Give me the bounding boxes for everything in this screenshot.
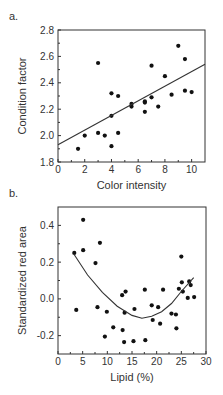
y-tick-label: -0.2: [37, 330, 55, 341]
x-tick-label: 20: [151, 356, 163, 367]
data-point: [103, 334, 107, 338]
data-point: [111, 325, 115, 329]
data-point: [169, 311, 173, 315]
data-point: [93, 261, 97, 265]
chart-standardized-red-area: 051015202530-0.20.00.20.4Lipid (%)Standa…: [0, 0, 223, 395]
x-tick-label: 10: [102, 356, 114, 367]
y-tick-label: 0.4: [40, 220, 54, 231]
data-point: [131, 339, 135, 343]
x-tick-label: 30: [200, 356, 212, 367]
data-point: [150, 303, 154, 307]
data-point: [151, 318, 155, 322]
data-point: [177, 287, 181, 291]
data-point: [74, 308, 78, 312]
data-point: [98, 241, 102, 245]
data-point: [174, 326, 178, 330]
data-point: [72, 251, 76, 255]
x-tick-label: 5: [80, 356, 86, 367]
y-tick-label: 0.0: [40, 293, 54, 304]
plot-frame: [58, 207, 206, 354]
data-point: [121, 328, 125, 332]
data-point: [123, 289, 127, 293]
data-point: [189, 283, 193, 287]
data-point: [120, 293, 124, 297]
data-point: [174, 312, 178, 316]
y-tick-label: 0.2: [40, 257, 54, 268]
data-point: [81, 218, 85, 222]
x-tick-label: 25: [176, 356, 188, 367]
data-point: [179, 255, 183, 259]
data-point: [143, 338, 147, 342]
data-point: [132, 307, 136, 311]
x-tick-label: 0: [55, 356, 61, 367]
data-point: [156, 305, 160, 309]
data-point: [158, 322, 162, 326]
data-point: [186, 296, 190, 300]
data-point: [122, 340, 126, 344]
data-point: [81, 248, 85, 252]
data-point: [192, 295, 196, 299]
data-point: [180, 280, 184, 284]
data-point: [105, 310, 109, 314]
data-point: [161, 288, 165, 292]
data-point: [143, 288, 147, 292]
x-axis-label: Lipid (%): [110, 371, 153, 383]
y-axis-label: Standardized red area: [16, 225, 28, 335]
x-tick-label: 15: [126, 356, 138, 367]
data-point: [95, 305, 99, 309]
